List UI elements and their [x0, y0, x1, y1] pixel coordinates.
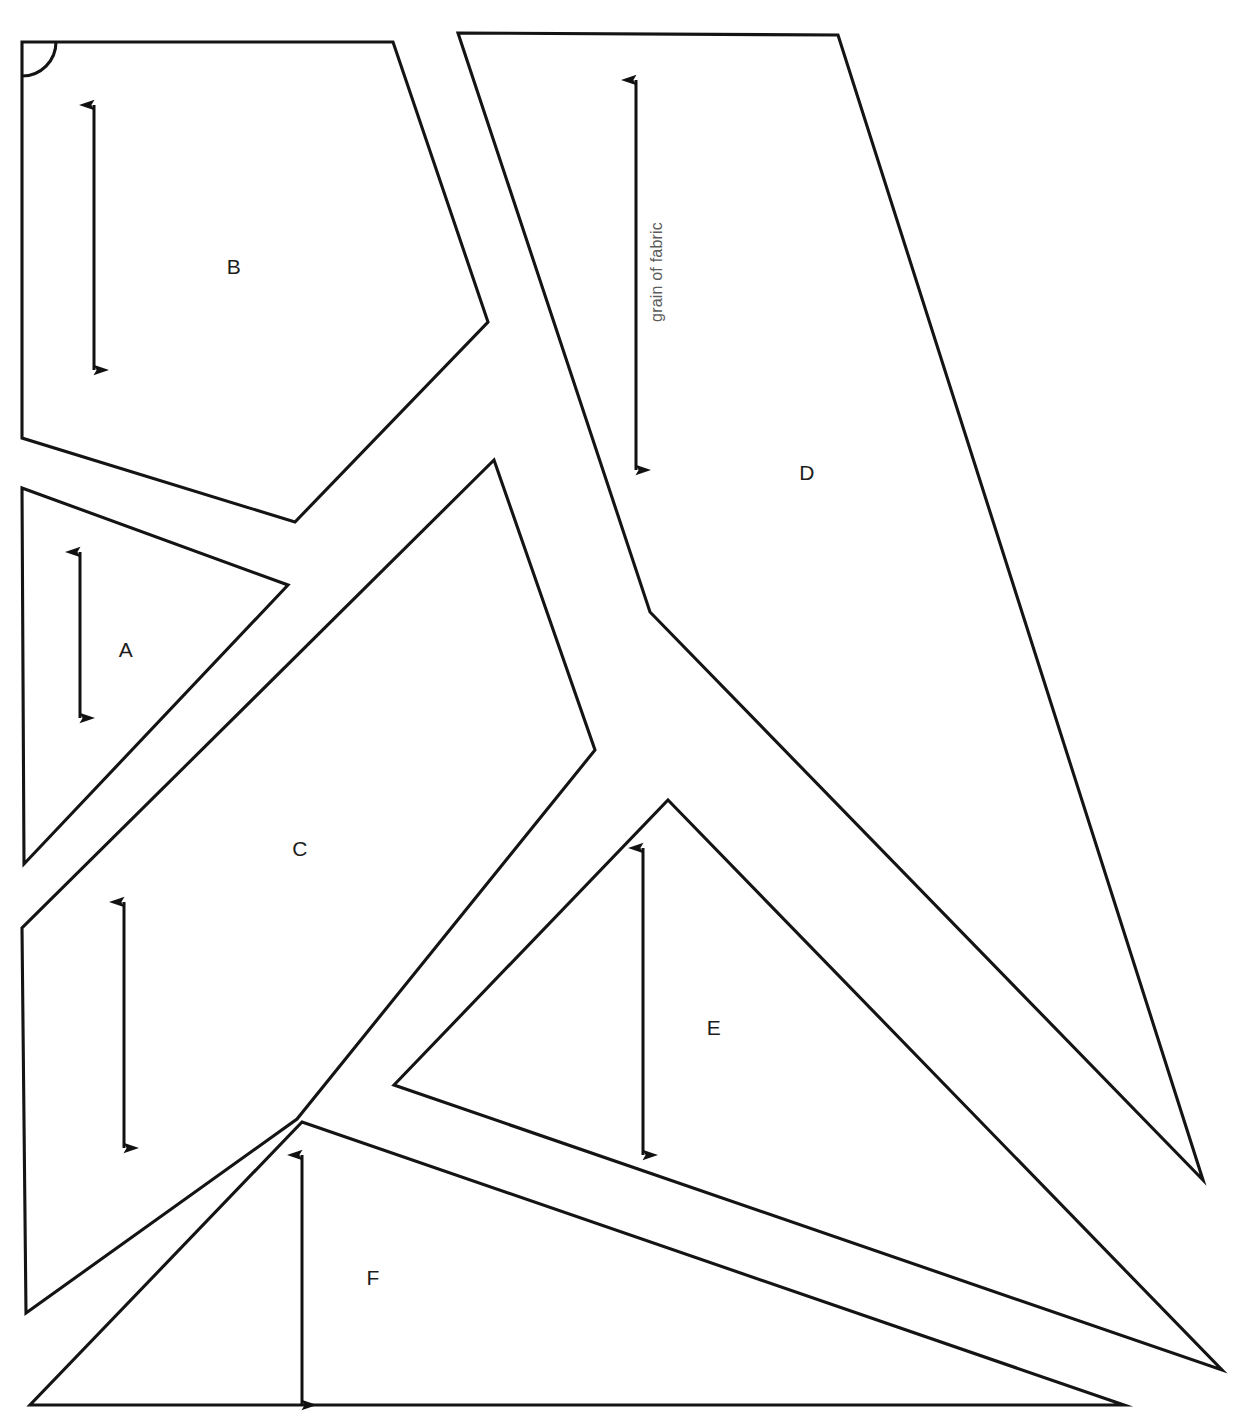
piece-label-C: C — [292, 837, 308, 860]
pattern-canvas: B grain of fabric D A C E F — [0, 0, 1250, 1425]
piece-label-E: E — [707, 1016, 721, 1039]
piece-label-B: B — [227, 255, 241, 278]
piece-label-F: F — [366, 1266, 379, 1289]
pattern-layout-diagram: B grain of fabric D A C E F — [0, 0, 1250, 1425]
piece-group-B[interactable]: B — [22, 42, 488, 522]
piece-outline-B[interactable] — [22, 42, 488, 522]
piece-label-D: D — [799, 461, 815, 484]
piece-label-A: A — [119, 638, 133, 661]
grain-of-fabric-label: grain of fabric — [648, 222, 665, 322]
